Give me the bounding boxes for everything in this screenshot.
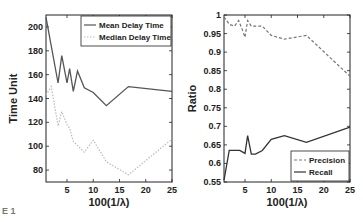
x-tick-label: 20: [141, 185, 151, 195]
y-tick-label: 200: [28, 22, 43, 32]
x-tick-label: 5: [64, 185, 69, 195]
y-axis-label: Time Unit: [7, 73, 19, 123]
legend-entry: Median Delay Time: [99, 33, 171, 42]
precision-recall-chart: 5101520250.550.60.650.70.750.80.850.90.9…: [186, 10, 355, 208]
x-tick-label: 15: [292, 185, 302, 195]
y-tick-label: 100: [28, 141, 43, 151]
x-tick-label: 10: [88, 185, 98, 195]
x-tick-label: 20: [319, 185, 329, 195]
legend-entry: Precision: [309, 156, 345, 165]
x-tick-label: 15: [114, 185, 124, 195]
x-tick-label: 5: [242, 185, 247, 195]
y-tick-label: 0.8: [208, 84, 221, 94]
y-tick-label: 0.55: [203, 177, 221, 187]
figure: 51015202580100120140160180200100(1/λ)Tim…: [0, 0, 363, 222]
y-tick-label: 0.9: [208, 47, 221, 57]
x-axis-label: 100(1/λ): [267, 196, 308, 208]
y-tick-label: 160: [28, 70, 43, 80]
x-tick-label: 25: [167, 185, 177, 195]
y-tick-label: 140: [28, 94, 43, 104]
x-tick-label: 10: [266, 185, 276, 195]
x-axis-label: 100(1/λ): [89, 196, 130, 208]
y-tick-label: 0.7: [208, 121, 221, 131]
y-axis-label: Ratio: [186, 84, 198, 112]
y-tick-label: 180: [28, 46, 43, 56]
y-tick-label: 80: [33, 165, 43, 175]
y-tick-label: 0.65: [203, 140, 221, 150]
y-tick-label: 1: [216, 10, 221, 20]
y-tick-label: 0.85: [203, 66, 221, 76]
legend-entry: Recall: [309, 168, 333, 177]
delay-time-chart: 51015202580100120140160180200100(1/λ)Tim…: [7, 15, 177, 208]
y-tick-label: 0.75: [203, 103, 221, 113]
x-tick-label: 25: [345, 185, 355, 195]
y-tick-label: 0.95: [203, 29, 221, 39]
legend-entry: Mean Delay Time: [99, 21, 164, 30]
figure-caption: E 1: [2, 206, 16, 216]
y-tick-label: 120: [28, 117, 43, 127]
y-tick-label: 0.6: [208, 158, 221, 168]
